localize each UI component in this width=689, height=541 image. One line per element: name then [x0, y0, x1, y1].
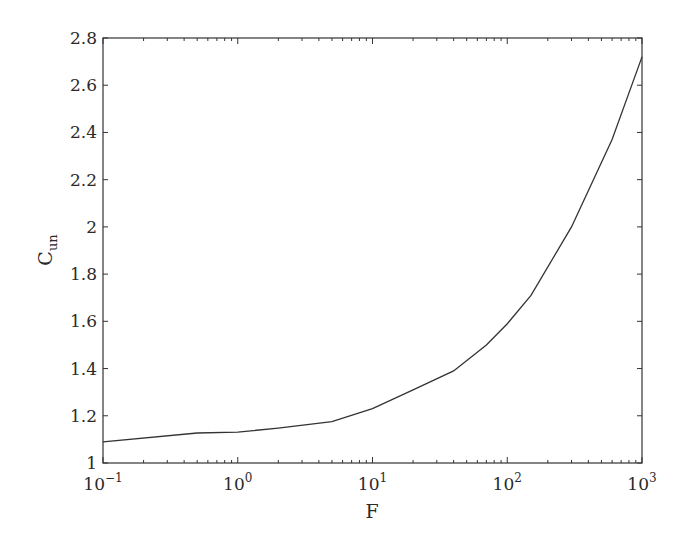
- y-tick-label: 2: [86, 217, 97, 237]
- data-line: [103, 57, 642, 442]
- major-ticks: [103, 38, 642, 463]
- x-tick-label: 10−1: [83, 471, 122, 494]
- svg-text:Cun: Cun: [34, 234, 60, 266]
- axes-frame: [103, 38, 642, 463]
- chart: 11.21.41.61.822.22.42.62.8 10−1100101102…: [0, 0, 689, 541]
- y-tick-label: 2.4: [70, 122, 97, 142]
- x-tick-label: 103: [627, 471, 656, 494]
- y-tick-label: 1.2: [70, 406, 97, 426]
- y-axis-label: Cun: [34, 234, 60, 266]
- y-tick-label: 2.2: [70, 170, 97, 190]
- y-tick-labels: 11.21.41.61.822.22.42.62.8: [70, 28, 97, 473]
- y-tick-label: 1.8: [70, 264, 97, 284]
- x-tick-label: 102: [493, 471, 522, 494]
- y-tick-label: 2.8: [70, 28, 97, 48]
- y-tick-label: 1: [86, 453, 97, 473]
- x-tick-label: 101: [358, 471, 387, 494]
- x-axis-label: F: [365, 500, 378, 522]
- y-tick-label: 1.4: [70, 359, 97, 379]
- x-tick-label: 100: [223, 471, 252, 494]
- y-tick-label: 2.6: [70, 75, 97, 95]
- y-tick-label: 1.6: [70, 311, 97, 331]
- minor-ticks: [144, 38, 636, 463]
- x-tick-labels: 10−1100101102103: [83, 471, 656, 494]
